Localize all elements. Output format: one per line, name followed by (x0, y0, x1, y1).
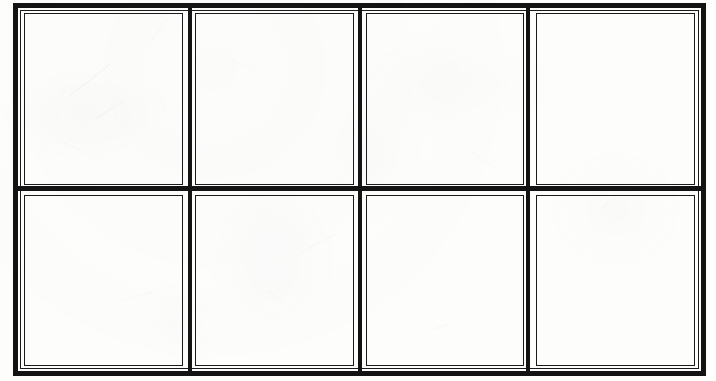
panel-border-7 (366, 195, 525, 367)
panel-border-1 (24, 13, 183, 185)
panel-cell-4[interactable] (530, 8, 701, 190)
panel-border-4 (536, 13, 695, 185)
panel-border-3 (366, 13, 525, 185)
panel-cell-5[interactable] (18, 190, 189, 372)
panel-border-6 (195, 195, 354, 367)
storyboard-page (0, 0, 716, 381)
panel-cell-3[interactable] (360, 8, 531, 190)
panel-border-5 (24, 195, 183, 367)
panel-border-8 (536, 195, 695, 367)
panel-cell-7[interactable] (360, 190, 531, 372)
panel-cell-8[interactable] (530, 190, 701, 372)
panel-cell-6[interactable] (189, 190, 360, 372)
panel-cell-1[interactable] (18, 8, 189, 190)
horizontal-divider-1 (13, 186, 706, 191)
panel-cell-2[interactable] (189, 8, 360, 190)
panel-border-2 (195, 13, 354, 185)
